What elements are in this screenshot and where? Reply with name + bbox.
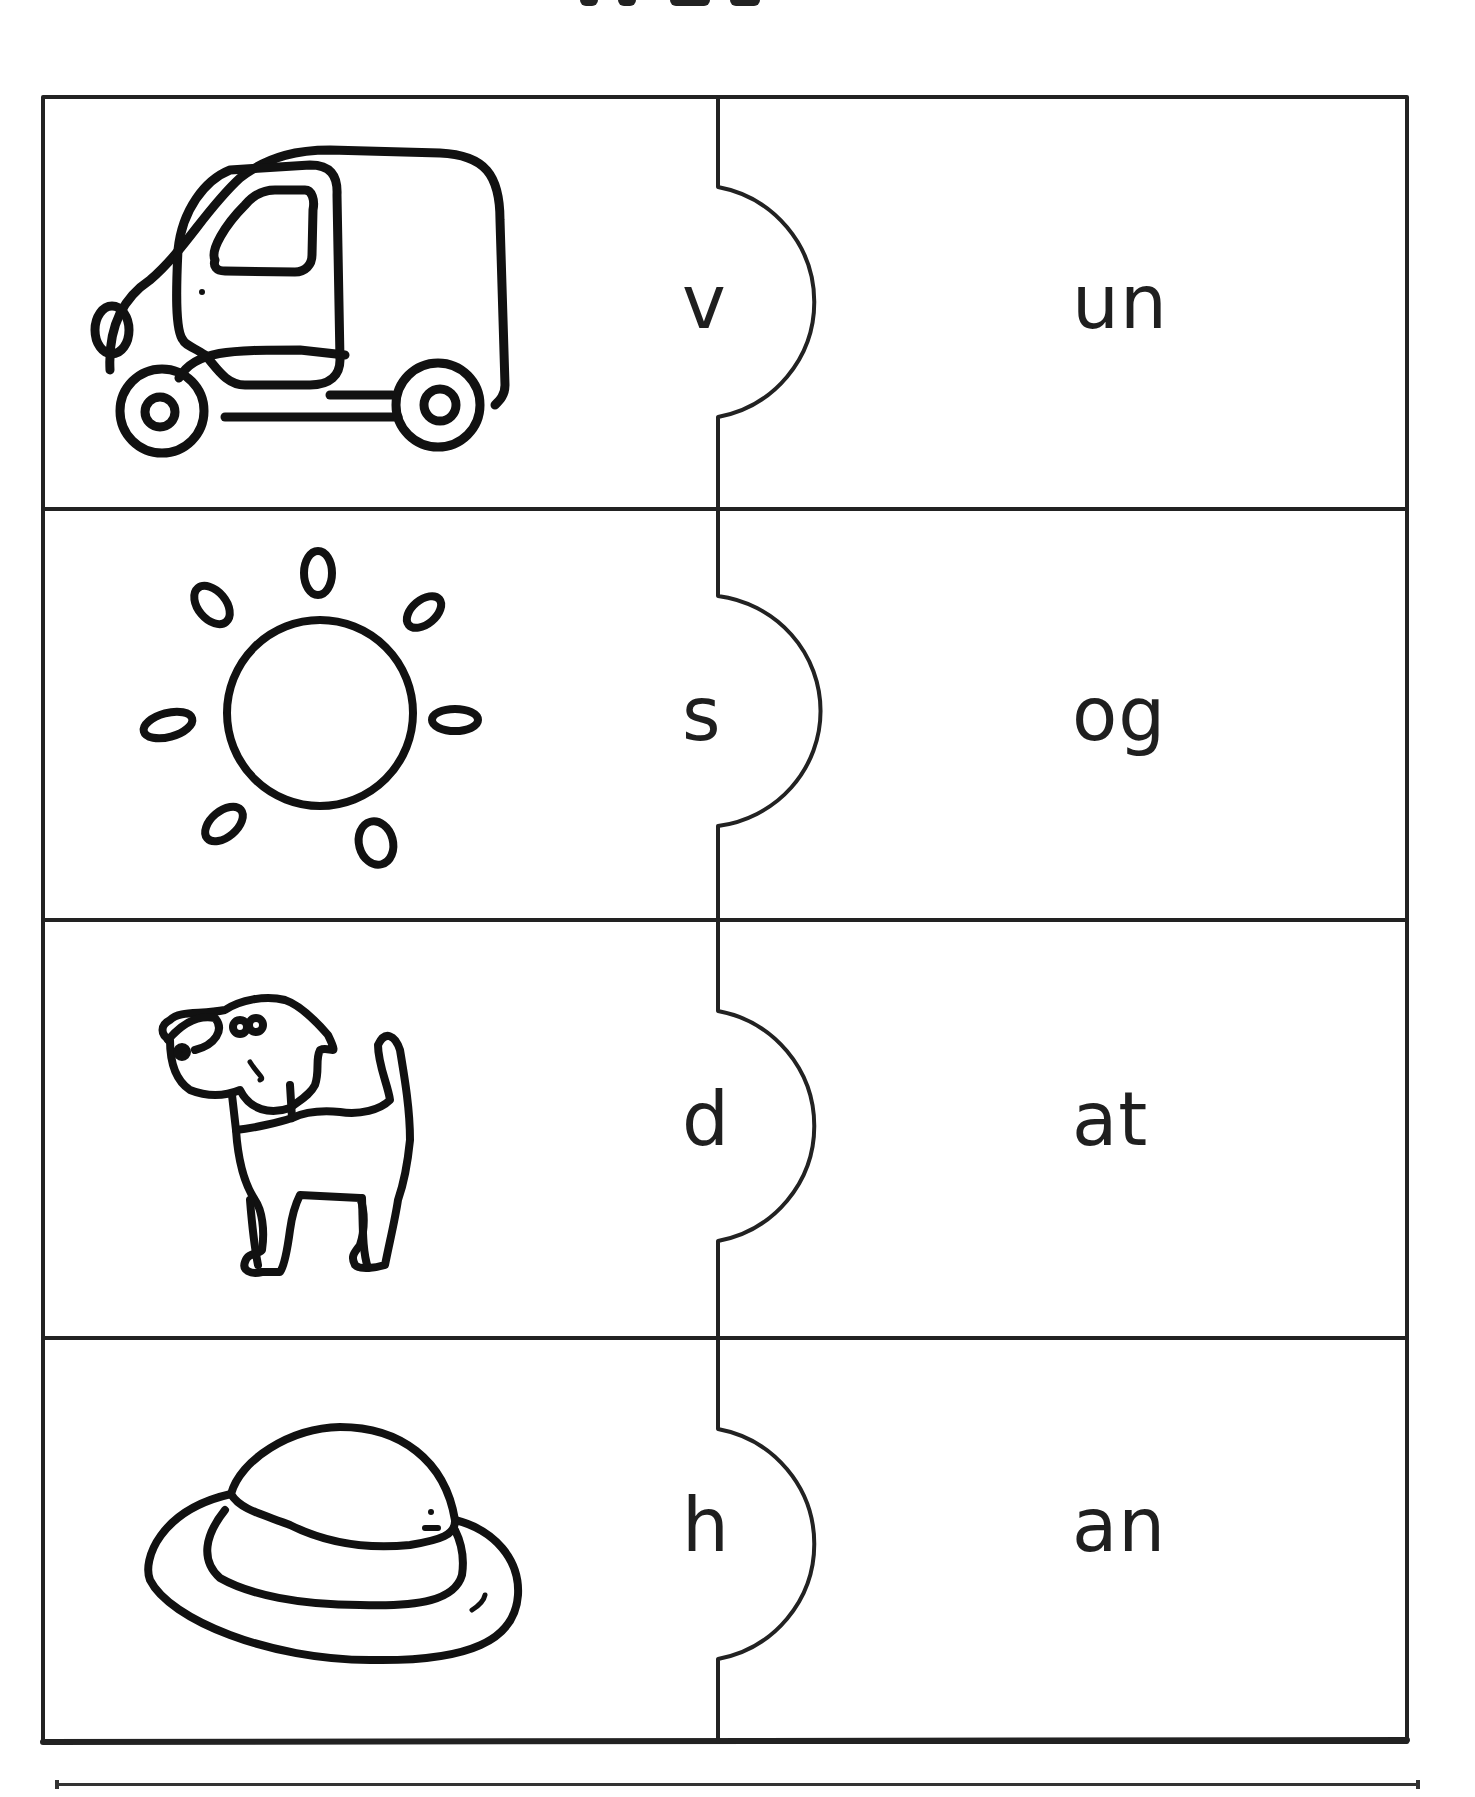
puzzle-row-sun: s og: [42, 509, 1407, 920]
puzzle-row-dog: d at: [42, 920, 1407, 1338]
initial-letter: v: [682, 265, 726, 339]
initial-letter: s: [682, 677, 721, 751]
word-ending: at: [1072, 1082, 1148, 1156]
puzzle-row-hat: h an: [42, 1338, 1407, 1742]
puzzle-row-van: v un: [42, 97, 1407, 509]
word-ending: an: [1072, 1488, 1166, 1562]
word-ending: un: [1072, 265, 1168, 339]
word-ending: og: [1072, 677, 1166, 751]
footer-rule: [55, 1783, 1420, 1786]
initial-letter: h: [682, 1488, 729, 1562]
worksheet: v un s og d at h an: [0, 0, 1475, 1797]
initial-letter: d: [682, 1082, 729, 1156]
